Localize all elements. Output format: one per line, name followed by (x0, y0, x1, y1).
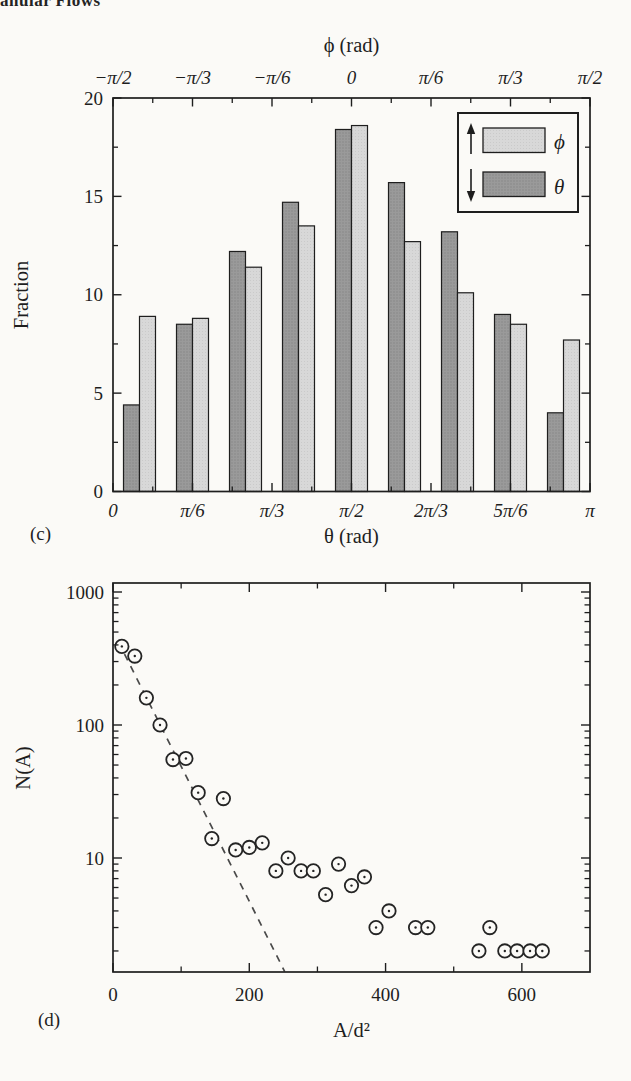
bar-phi (193, 318, 209, 491)
scatter-point-dot (275, 870, 277, 872)
x-tick-label: 200 (235, 984, 264, 1005)
scatter-point-dot (134, 655, 136, 657)
scatter-point-dot (300, 870, 302, 872)
scatter-point-dot (159, 724, 161, 726)
y-tick-label: 100 (76, 715, 105, 736)
bar-theta (230, 251, 246, 491)
x-tick-label: 400 (371, 984, 400, 1005)
scatter-point-dot (541, 950, 543, 952)
phi-tick-label: −π/2 (94, 67, 132, 88)
legend-swatch-phi (483, 128, 545, 153)
phi-tick-label: 0 (347, 67, 357, 88)
phi-tick-label: −π/6 (253, 67, 291, 88)
bar-phi (352, 126, 368, 492)
phi-axis-title: ϕ (rad) (324, 34, 380, 57)
fraction-tick-label: 10 (84, 284, 103, 305)
fraction-tick-label: 5 (94, 383, 104, 404)
scatter-point-dot (427, 926, 429, 928)
scatter-point-dot (529, 950, 531, 952)
scatter-point-dot (261, 842, 263, 844)
theta-tick-label: 5π/6 (494, 500, 528, 521)
book-page: anular Flows 0−π/2π/6−π/3π/3−π/6π/202π/3… (0, 0, 631, 1081)
scatter-point-dot (375, 926, 377, 928)
bar-phi (564, 340, 580, 491)
legend-swatch-theta (483, 172, 545, 197)
scatter-point-dot (234, 849, 236, 851)
scatter-point-dot (121, 645, 123, 647)
x-tick-label: 600 (508, 984, 537, 1005)
scatter-point-dot (516, 950, 518, 952)
scatter-point-dot (504, 950, 506, 952)
theta-tick-label: π (585, 500, 595, 521)
panel-label-d: (d) (38, 1009, 60, 1031)
y-tick-label: 10 (85, 848, 104, 869)
scatter-point-dot (489, 926, 491, 928)
bar-theta (177, 324, 193, 491)
bar-phi (299, 226, 315, 492)
phi-tick-label: π/6 (419, 67, 444, 88)
scatter-point-dot (350, 884, 352, 886)
bar-phi (458, 293, 474, 492)
fraction-axis-title: Fraction (10, 261, 32, 329)
bar-theta (442, 232, 458, 492)
fraction-tick-label: 0 (94, 481, 104, 502)
scatter-point-dot (324, 893, 326, 895)
theta-tick-label: 0 (108, 500, 118, 521)
bar-theta (283, 202, 299, 491)
scatter-point-dot (172, 758, 174, 760)
scatter-point-dot (185, 757, 187, 759)
bar-phi (140, 316, 156, 491)
phi-tick-label: π/2 (578, 67, 603, 88)
scatter-point-dot (197, 791, 199, 793)
figure-canvas: 0−π/2π/6−π/3π/3−π/6π/202π/3π/65π/6π/3ππ/… (0, 0, 631, 1081)
bar-phi (405, 242, 421, 492)
y-tick-label: 1000 (66, 582, 104, 603)
theta-tick-label: π/2 (339, 500, 364, 521)
legend-label-phi: ϕ (554, 130, 565, 154)
bar-phi (511, 324, 527, 491)
na-axis-title: N(A) (12, 746, 35, 789)
scatter-point-dot (145, 697, 147, 699)
scatter-frame (113, 583, 590, 972)
theta-tick-label: π/6 (180, 500, 205, 521)
bar-theta (389, 183, 405, 492)
bar-theta (495, 314, 511, 491)
bar-phi (246, 267, 262, 491)
panel-label-c: (c) (30, 523, 51, 545)
bar-chart-panel: 0−π/2π/6−π/3π/3−π/6π/202π/3π/65π/6π/3ππ/… (10, 34, 603, 548)
phi-tick-label: π/3 (498, 67, 522, 88)
scatter-point-dot (222, 797, 224, 799)
x-tick-label: 0 (108, 984, 118, 1005)
scatter-point-dot (363, 876, 365, 878)
scatter-point-dot (337, 863, 339, 865)
ad2-axis-title: A/d² (333, 1019, 370, 1041)
theta-tick-label: 2π/3 (414, 500, 448, 521)
legend-box-group: ϕθ (458, 113, 578, 212)
scatter-panel: 0200400600100010010N(A)A/d²(d) (12, 582, 590, 1042)
phi-tick-label: −π/3 (174, 67, 211, 88)
scatter-point-dot (312, 870, 314, 872)
bar-theta (336, 129, 352, 491)
fraction-tick-label: 20 (84, 88, 103, 109)
theta-axis-title: θ (rad) (324, 525, 379, 548)
scatter-point-dot (388, 910, 390, 912)
scatter-point-dot (414, 926, 416, 928)
scatter-point-dot (287, 857, 289, 859)
legend-label-theta: θ (554, 175, 564, 199)
bar-theta (548, 413, 564, 492)
scatter-point-dot (248, 846, 250, 848)
theta-tick-label: π/3 (260, 500, 284, 521)
scatter-point-dot (211, 837, 213, 839)
bar-theta (124, 405, 140, 492)
fraction-tick-label: 15 (84, 186, 103, 207)
scatter-point-dot (478, 950, 480, 952)
